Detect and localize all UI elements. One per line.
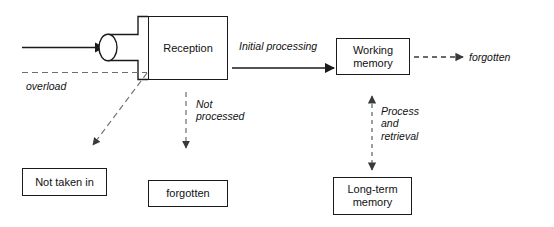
edge-label-overload: overload: [26, 80, 66, 92]
node-not-taken-in-label: Not taken in: [35, 176, 94, 189]
bottleneck-neck-bottom: [108, 61, 148, 80]
memory-model-diagram: Reception Working memory Long-term memor…: [0, 0, 554, 227]
node-forgotten-box: forgotten: [148, 180, 228, 207]
edge-overload-to-not-taken-in: [93, 73, 147, 145]
node-long-term-memory: Long-term memory: [333, 177, 412, 215]
node-not-taken-in: Not taken in: [22, 168, 107, 196]
terminal-label-forgotten: forgotten: [469, 51, 510, 63]
bottleneck-neck-top: [108, 17, 148, 35]
node-reception: Reception: [148, 16, 228, 80]
node-working-memory-label: Working memory: [353, 44, 393, 70]
edge-label-not-processed: Not processed: [196, 98, 244, 123]
node-long-term-memory-label: Long-term memory: [347, 183, 397, 209]
node-forgotten-box-label: forgotten: [166, 187, 209, 200]
edge-label-process-and-retrieval: Process and retrieval: [381, 105, 419, 142]
node-reception-label: Reception: [163, 42, 213, 55]
node-working-memory: Working memory: [336, 38, 410, 75]
edge-label-initial-processing: Initial processing: [239, 40, 317, 52]
bottleneck-ellipse-icon: [99, 34, 117, 60]
